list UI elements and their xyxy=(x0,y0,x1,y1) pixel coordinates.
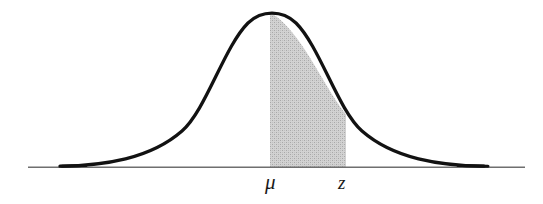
gaussian-left-tail xyxy=(62,166,86,167)
shaded-area-mu-to-z xyxy=(60,14,484,167)
gaussian-right-tail xyxy=(458,166,488,167)
normal-distribution-figure: μ z xyxy=(0,0,543,204)
shaded-area-path xyxy=(60,14,484,167)
axis-label-mu: μ xyxy=(265,172,276,193)
axis-label-z: z xyxy=(338,173,345,192)
